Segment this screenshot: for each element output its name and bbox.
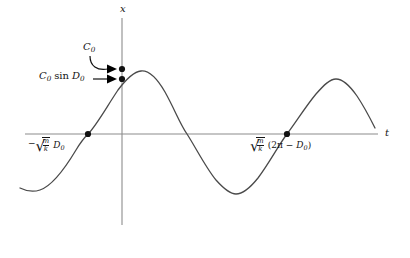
initial-argument: D: [72, 70, 80, 81]
right-first-term: 2π: [271, 140, 283, 150]
initial-argument-subscript: 0: [80, 74, 85, 83]
right-radical: √mk: [250, 138, 265, 154]
amplitude-arrow-head: [107, 65, 117, 74]
right-intercept-label: √mk(2π−D0): [250, 138, 311, 154]
left-negative-sign: −: [28, 138, 36, 148]
sine-curve: [20, 71, 375, 194]
amplitude-subscript: 0: [91, 45, 96, 54]
initial-coefficient: C: [39, 70, 47, 81]
left-radical: √mk: [36, 138, 51, 154]
amplitude-label: C0: [83, 42, 95, 53]
initial-value-arrow-head: [107, 75, 117, 84]
amplitude-marker: [119, 66, 125, 72]
initial-value-marker: [119, 76, 125, 82]
initial-value-label: C0sinD0: [39, 71, 85, 82]
right-operator: −: [286, 140, 294, 150]
left-intercept-marker: [85, 131, 91, 137]
sinusoid-figure: x t C0 C0sinD0 −√mkD0 √mk(2π−D0): [0, 0, 410, 258]
left-intercept-label: −√mkD0: [28, 138, 65, 154]
amplitude-arrow: [90, 56, 108, 69]
vertical-axis-label: x: [120, 4, 126, 14]
right-close-paren: ): [308, 140, 312, 150]
right-intercept-marker: [284, 131, 290, 137]
horizontal-axis-label: t: [385, 128, 389, 138]
plot-canvas: [0, 0, 410, 258]
sine-function-name: sin: [54, 70, 69, 81]
right-second-term: D: [296, 140, 303, 150]
radical-sign-icon: √: [250, 138, 260, 153]
radical-sign-icon: √: [36, 138, 46, 153]
amplitude-symbol: C: [83, 41, 91, 52]
left-trailing-subscript: 0: [60, 144, 64, 152]
initial-coefficient-subscript: 0: [47, 74, 52, 83]
